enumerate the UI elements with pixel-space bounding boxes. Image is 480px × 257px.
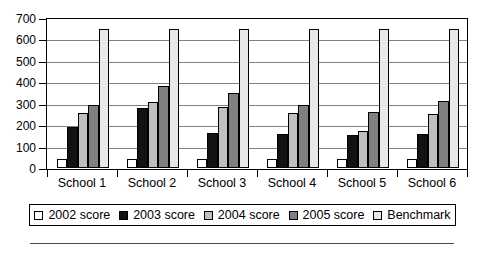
bar (358, 131, 369, 169)
bar (267, 159, 278, 168)
bar (288, 113, 299, 168)
bar (127, 159, 138, 168)
bar (197, 159, 208, 168)
bars-layer (48, 20, 466, 168)
bar (347, 135, 358, 168)
bar (379, 29, 390, 168)
y-axis-tick-label: 200 (16, 120, 36, 132)
legend-item[interactable]: Benchmark (373, 209, 450, 222)
plot-area (46, 18, 468, 170)
y-axis-tick-mark (39, 40, 46, 41)
y-axis-tick-mark (39, 62, 46, 63)
y-axis-tick-label: 500 (16, 56, 36, 68)
y-axis-tick-label: 400 (16, 77, 36, 89)
bar (67, 127, 78, 168)
bar (148, 102, 159, 168)
legend-swatch-icon (373, 211, 382, 220)
legend-swatch-icon (119, 211, 128, 220)
legend-item[interactable]: 2004 score (204, 209, 280, 222)
bar (158, 86, 169, 169)
y-axis-tick-mark (39, 19, 46, 20)
legend-label: 2002 score (48, 209, 110, 222)
legend-swatch-icon (34, 211, 43, 220)
x-axis-category-label: School 3 (198, 176, 247, 191)
legend-item[interactable]: 2005 score (289, 209, 365, 222)
bar-group (118, 20, 188, 168)
y-axis-tick-mark (39, 126, 46, 127)
bar (298, 105, 309, 168)
legend-label: 2004 score (218, 209, 280, 222)
y-axis: 0100200300400500600700 (0, 18, 46, 170)
legend-item[interactable]: 2003 score (119, 209, 195, 222)
legend-label: 2005 score (303, 209, 365, 222)
bar (428, 114, 439, 168)
bar (438, 101, 449, 169)
y-axis-tick-mark (39, 169, 46, 170)
y-axis-tick-label: 0 (29, 163, 36, 175)
bar (449, 29, 460, 168)
x-axis-category-label: School 2 (128, 176, 177, 191)
bar-group (328, 20, 398, 168)
y-axis-tick-mark (39, 83, 46, 84)
bar (207, 133, 218, 168)
y-axis-tick-label: 300 (16, 99, 36, 111)
bar-group (48, 20, 118, 168)
bar (228, 93, 239, 168)
bar (57, 159, 68, 168)
plot-wrapper (46, 18, 468, 170)
legend-swatch-icon (204, 211, 213, 220)
bar (407, 159, 418, 168)
legend-label: Benchmark (387, 209, 450, 222)
legend-swatch-icon (289, 211, 298, 220)
bar (309, 29, 320, 168)
y-axis-tick-label: 700 (16, 13, 36, 25)
bar (88, 105, 99, 168)
y-axis-tick-mark (39, 105, 46, 106)
bar (337, 159, 348, 168)
bar (417, 134, 428, 168)
chart-legend: 2002 score2003 score2004 score2005 score… (29, 204, 456, 226)
bar-chart-figure: 0100200300400500600700 School 1School 2S… (0, 0, 480, 257)
bar (137, 108, 148, 168)
x-axis-labels: School 1School 2School 3School 4School 5… (46, 176, 468, 194)
bar (99, 29, 110, 168)
bar (368, 112, 379, 168)
x-axis-category-label: School 1 (58, 176, 107, 191)
bar-group (188, 20, 258, 168)
bar (239, 29, 250, 168)
bar-group (258, 20, 328, 168)
bar (169, 29, 180, 168)
bar (277, 134, 288, 168)
x-axis-category-label: School 5 (338, 176, 387, 191)
y-axis-tick-mark (39, 148, 46, 149)
legend-label: 2003 score (133, 209, 195, 222)
bar (218, 107, 229, 168)
bar (78, 113, 89, 168)
y-axis-tick-label: 100 (16, 142, 36, 154)
x-axis-category-label: School 4 (268, 176, 317, 191)
legend-item[interactable]: 2002 score (34, 209, 110, 222)
y-axis-tick-label: 600 (16, 34, 36, 46)
footer-divider (30, 243, 454, 244)
x-axis-category-label: School 6 (408, 176, 457, 191)
bar-group (398, 20, 468, 168)
